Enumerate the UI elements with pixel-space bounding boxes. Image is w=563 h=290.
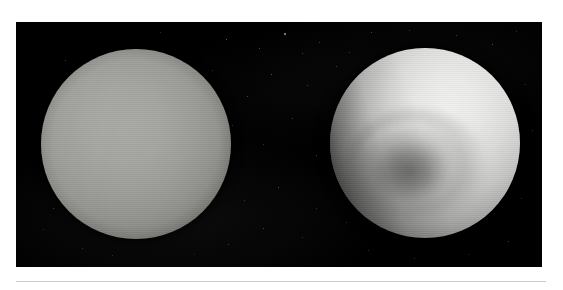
bright-limb-crescent <box>330 48 520 238</box>
uranus-natural-color-disc <box>41 49 231 239</box>
star-point <box>319 42 320 43</box>
star-point <box>525 84 526 85</box>
star-point <box>259 48 260 49</box>
star-point <box>292 118 293 119</box>
scanline-texture <box>41 49 231 239</box>
star-point <box>244 200 245 201</box>
horizontal-divider-rule <box>16 281 546 282</box>
star-point <box>53 208 54 209</box>
star-point <box>468 254 469 255</box>
star-point <box>160 32 161 33</box>
uranus-contrast-enhanced-disc <box>330 48 520 238</box>
star-point <box>278 187 279 188</box>
star-point <box>247 96 248 97</box>
star-point <box>521 198 522 199</box>
star-point <box>532 130 533 131</box>
star-point <box>307 85 308 86</box>
limb-darkening-overlay <box>41 49 231 239</box>
star-point <box>346 222 347 223</box>
star-point <box>316 208 317 209</box>
star-point <box>508 241 509 242</box>
star-point <box>516 31 517 32</box>
figure-page <box>0 0 563 290</box>
star-point <box>82 248 83 249</box>
star-point <box>232 125 233 126</box>
star-point <box>409 30 410 31</box>
scanline-texture <box>330 48 520 238</box>
polar-hood-dark-region <box>357 128 475 223</box>
star-point <box>302 53 303 54</box>
star-point <box>302 237 303 238</box>
astronomical-image-plate <box>16 22 542 267</box>
star-point <box>43 229 44 230</box>
star-point <box>349 52 350 53</box>
star-point <box>414 258 415 259</box>
star-point <box>112 255 113 256</box>
star-point <box>65 60 66 61</box>
star-point <box>271 74 272 75</box>
star-point <box>194 254 195 255</box>
star-point <box>263 228 264 229</box>
star-point <box>212 70 213 71</box>
star-point <box>336 66 337 67</box>
star-point <box>368 250 369 251</box>
star-point <box>226 39 227 40</box>
star-point <box>316 155 317 156</box>
star-point <box>263 144 264 145</box>
star-point <box>284 33 286 35</box>
star-point <box>492 44 493 45</box>
terminator-shadow <box>330 48 520 238</box>
star-point <box>371 32 372 33</box>
polar-banding-outer <box>345 109 486 231</box>
star-point <box>228 244 229 245</box>
star-point <box>456 35 457 36</box>
